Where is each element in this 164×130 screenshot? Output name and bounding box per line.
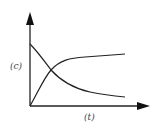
decreasing-curve xyxy=(30,44,125,97)
y-axis-arrow-icon xyxy=(26,12,34,25)
y-axis-label: (c) xyxy=(10,62,22,71)
y-axis xyxy=(26,12,34,106)
x-axis-arrow-icon xyxy=(137,102,150,110)
x-axis xyxy=(30,102,150,110)
x-axis-label: (t) xyxy=(84,113,95,122)
diagram-canvas xyxy=(0,0,164,130)
